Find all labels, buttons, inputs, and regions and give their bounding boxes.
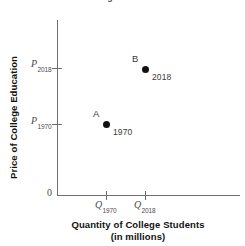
y-axis-label-p1970-subscript: 1970	[37, 123, 51, 130]
x-axis-title-line2: (in millions)	[38, 231, 238, 243]
y-axis-line	[57, 20, 58, 196]
y-axis-tick-p1970	[52, 124, 62, 125]
x-axis-title: Quantity of College Students (in million…	[38, 219, 238, 242]
data-point-b-year-label: 2018	[152, 72, 171, 82]
data-point-a-letter: A	[93, 108, 100, 119]
college-market-scatter-chart: Price of College P2018 P1970 Q1970 Q2018…	[0, 0, 245, 246]
y-axis-label-p2018-subscript: 2018	[37, 66, 51, 73]
y-axis-label-p2018: P2018	[31, 58, 51, 71]
y-axis-label-p1970: P1970	[31, 115, 51, 128]
x-axis-line	[57, 195, 240, 196]
y-axis-tick-p2018	[52, 68, 62, 69]
data-point-a-year-label: 1970	[113, 127, 132, 137]
x-axis-label-q2018-subscript: 2018	[142, 207, 156, 214]
origin-label: 0	[47, 187, 52, 198]
x-axis-label-q2018: Q2018	[134, 199, 155, 212]
x-axis-label-q1970-symbol: Q	[95, 199, 102, 210]
y-axis-title: Price of College Education	[8, 43, 19, 193]
chart-title-fragment: Price of College	[55, 0, 195, 2]
data-point-b-letter: B	[132, 53, 139, 64]
x-axis-label-q1970: Q1970	[95, 199, 116, 212]
data-point-a	[103, 121, 110, 128]
x-axis-label-q1970-subscript: 1970	[103, 207, 117, 214]
x-axis-label-q2018-symbol: Q	[134, 199, 141, 210]
x-axis-title-line1: Quantity of College Students	[71, 219, 204, 230]
data-point-b	[142, 66, 149, 73]
